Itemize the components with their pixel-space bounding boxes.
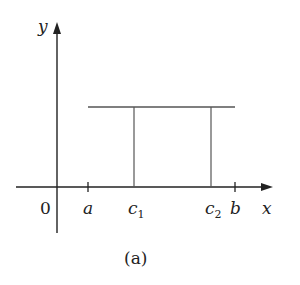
origin-label: 0 (40, 198, 51, 218)
y-axis-arrow-icon (53, 22, 61, 34)
y-axis-label: y (37, 16, 48, 36)
diagram: y 0 a c1 c2 b x (a) (0, 0, 300, 285)
x-axis-label: x (262, 198, 272, 218)
tick-a-label: a (83, 198, 93, 218)
c2-label: c2 (205, 198, 222, 221)
x-axis-arrow-icon (261, 183, 273, 191)
figure-caption: (a) (124, 248, 147, 268)
tick-b-label: b (230, 198, 241, 218)
c1-label: c1 (128, 198, 145, 221)
